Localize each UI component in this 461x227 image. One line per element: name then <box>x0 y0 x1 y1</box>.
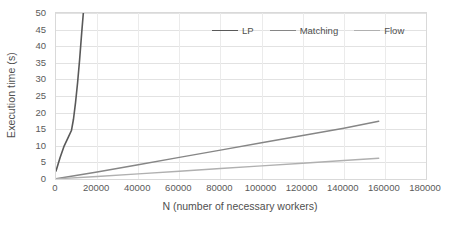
legend-item-flow[interactable]: Flow <box>354 25 404 36</box>
y-tick-label: 40 <box>35 40 46 51</box>
legend-item-lp[interactable]: LP <box>212 25 254 36</box>
y-tick-label: 0 <box>41 173 46 184</box>
chart-legend: LPMatchingFlow <box>212 25 404 36</box>
x-tick-label: 40000 <box>124 182 150 193</box>
x-tick-label: 0 <box>52 182 57 193</box>
x-tick-label: 140000 <box>327 182 359 193</box>
series-lines <box>56 13 426 179</box>
y-tick-label: 35 <box>35 56 46 67</box>
series-line-lp <box>56 13 83 171</box>
chart-container: Execution time (s) 05101520253035404550 … <box>0 0 461 227</box>
x-tick-label: 80000 <box>206 182 232 193</box>
y-axis-title: Execution time (s) <box>0 0 22 190</box>
x-tick-label: 120000 <box>286 182 318 193</box>
x-tick-label: 100000 <box>245 182 277 193</box>
y-tick-label: 50 <box>35 7 46 18</box>
y-tick-label: 5 <box>41 156 46 167</box>
plot-area <box>55 12 427 180</box>
y-tick-label: 15 <box>35 123 46 134</box>
y-axis-tick-labels: 05101520253035404550 <box>22 7 49 179</box>
y-axis-title-label: Execution time (s) <box>5 52 17 138</box>
series-line-flow <box>56 158 379 179</box>
y-tick-label: 25 <box>35 90 46 101</box>
y-tick-label: 20 <box>35 106 46 117</box>
legend-label: LP <box>242 25 254 36</box>
y-tick-label: 45 <box>35 23 46 34</box>
legend-swatch-icon <box>212 30 238 31</box>
y-tick-label: 30 <box>35 73 46 84</box>
series-line-matching <box>56 121 379 179</box>
x-axis-title: N (number of necessary workers) <box>55 200 425 212</box>
legend-item-matching[interactable]: Matching <box>270 25 339 36</box>
x-axis-tick-labels: 0200004000060000800001000001200001400001… <box>55 182 425 196</box>
legend-label: Matching <box>300 25 339 36</box>
x-tick-label: 60000 <box>165 182 191 193</box>
x-tick-label: 160000 <box>368 182 400 193</box>
legend-swatch-icon <box>354 30 380 31</box>
x-tick-label: 20000 <box>83 182 109 193</box>
legend-label: Flow <box>384 25 404 36</box>
legend-swatch-icon <box>270 30 296 31</box>
x-tick-label: 180000 <box>409 182 441 193</box>
y-tick-label: 10 <box>35 139 46 150</box>
